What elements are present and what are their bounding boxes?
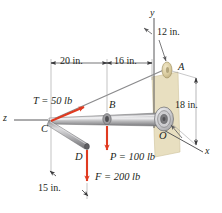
point-B-label: B (109, 100, 115, 111)
y-axis-label: y (150, 8, 154, 18)
dim-18in-label: 18 in. (175, 100, 198, 110)
dim-15in-label: 15 in. (38, 183, 61, 193)
dim-12in-label: 12 in. (157, 27, 180, 37)
dim-20in-label: 20 in. (60, 56, 83, 66)
statics-figure: y x z A B C D O 12 in. 20 in. 16 in. 18 … (0, 0, 222, 213)
dim-16in-label: 16 in. (114, 56, 137, 66)
force-P-label: P = 100 lb (110, 152, 155, 163)
z-axis-label: z (3, 113, 7, 123)
dim-12in-leader (144, 28, 152, 34)
point-D-label: D (75, 152, 83, 163)
force-F-label: F = 200 lb (95, 172, 140, 183)
point-A-eyelet (162, 62, 172, 78)
point-C-label: C (41, 124, 48, 135)
dim-12in-leader-A (159, 40, 166, 61)
point-A-label: A (178, 62, 184, 73)
point-D-cap (85, 144, 90, 150)
x-axis-label: x (205, 146, 209, 156)
force-T-label: T = 50 lb (33, 96, 72, 107)
dim-extension-lines (51, 59, 152, 118)
collar-B (103, 114, 111, 125)
point-O-label: O (159, 131, 167, 142)
bearing-O (155, 107, 174, 131)
